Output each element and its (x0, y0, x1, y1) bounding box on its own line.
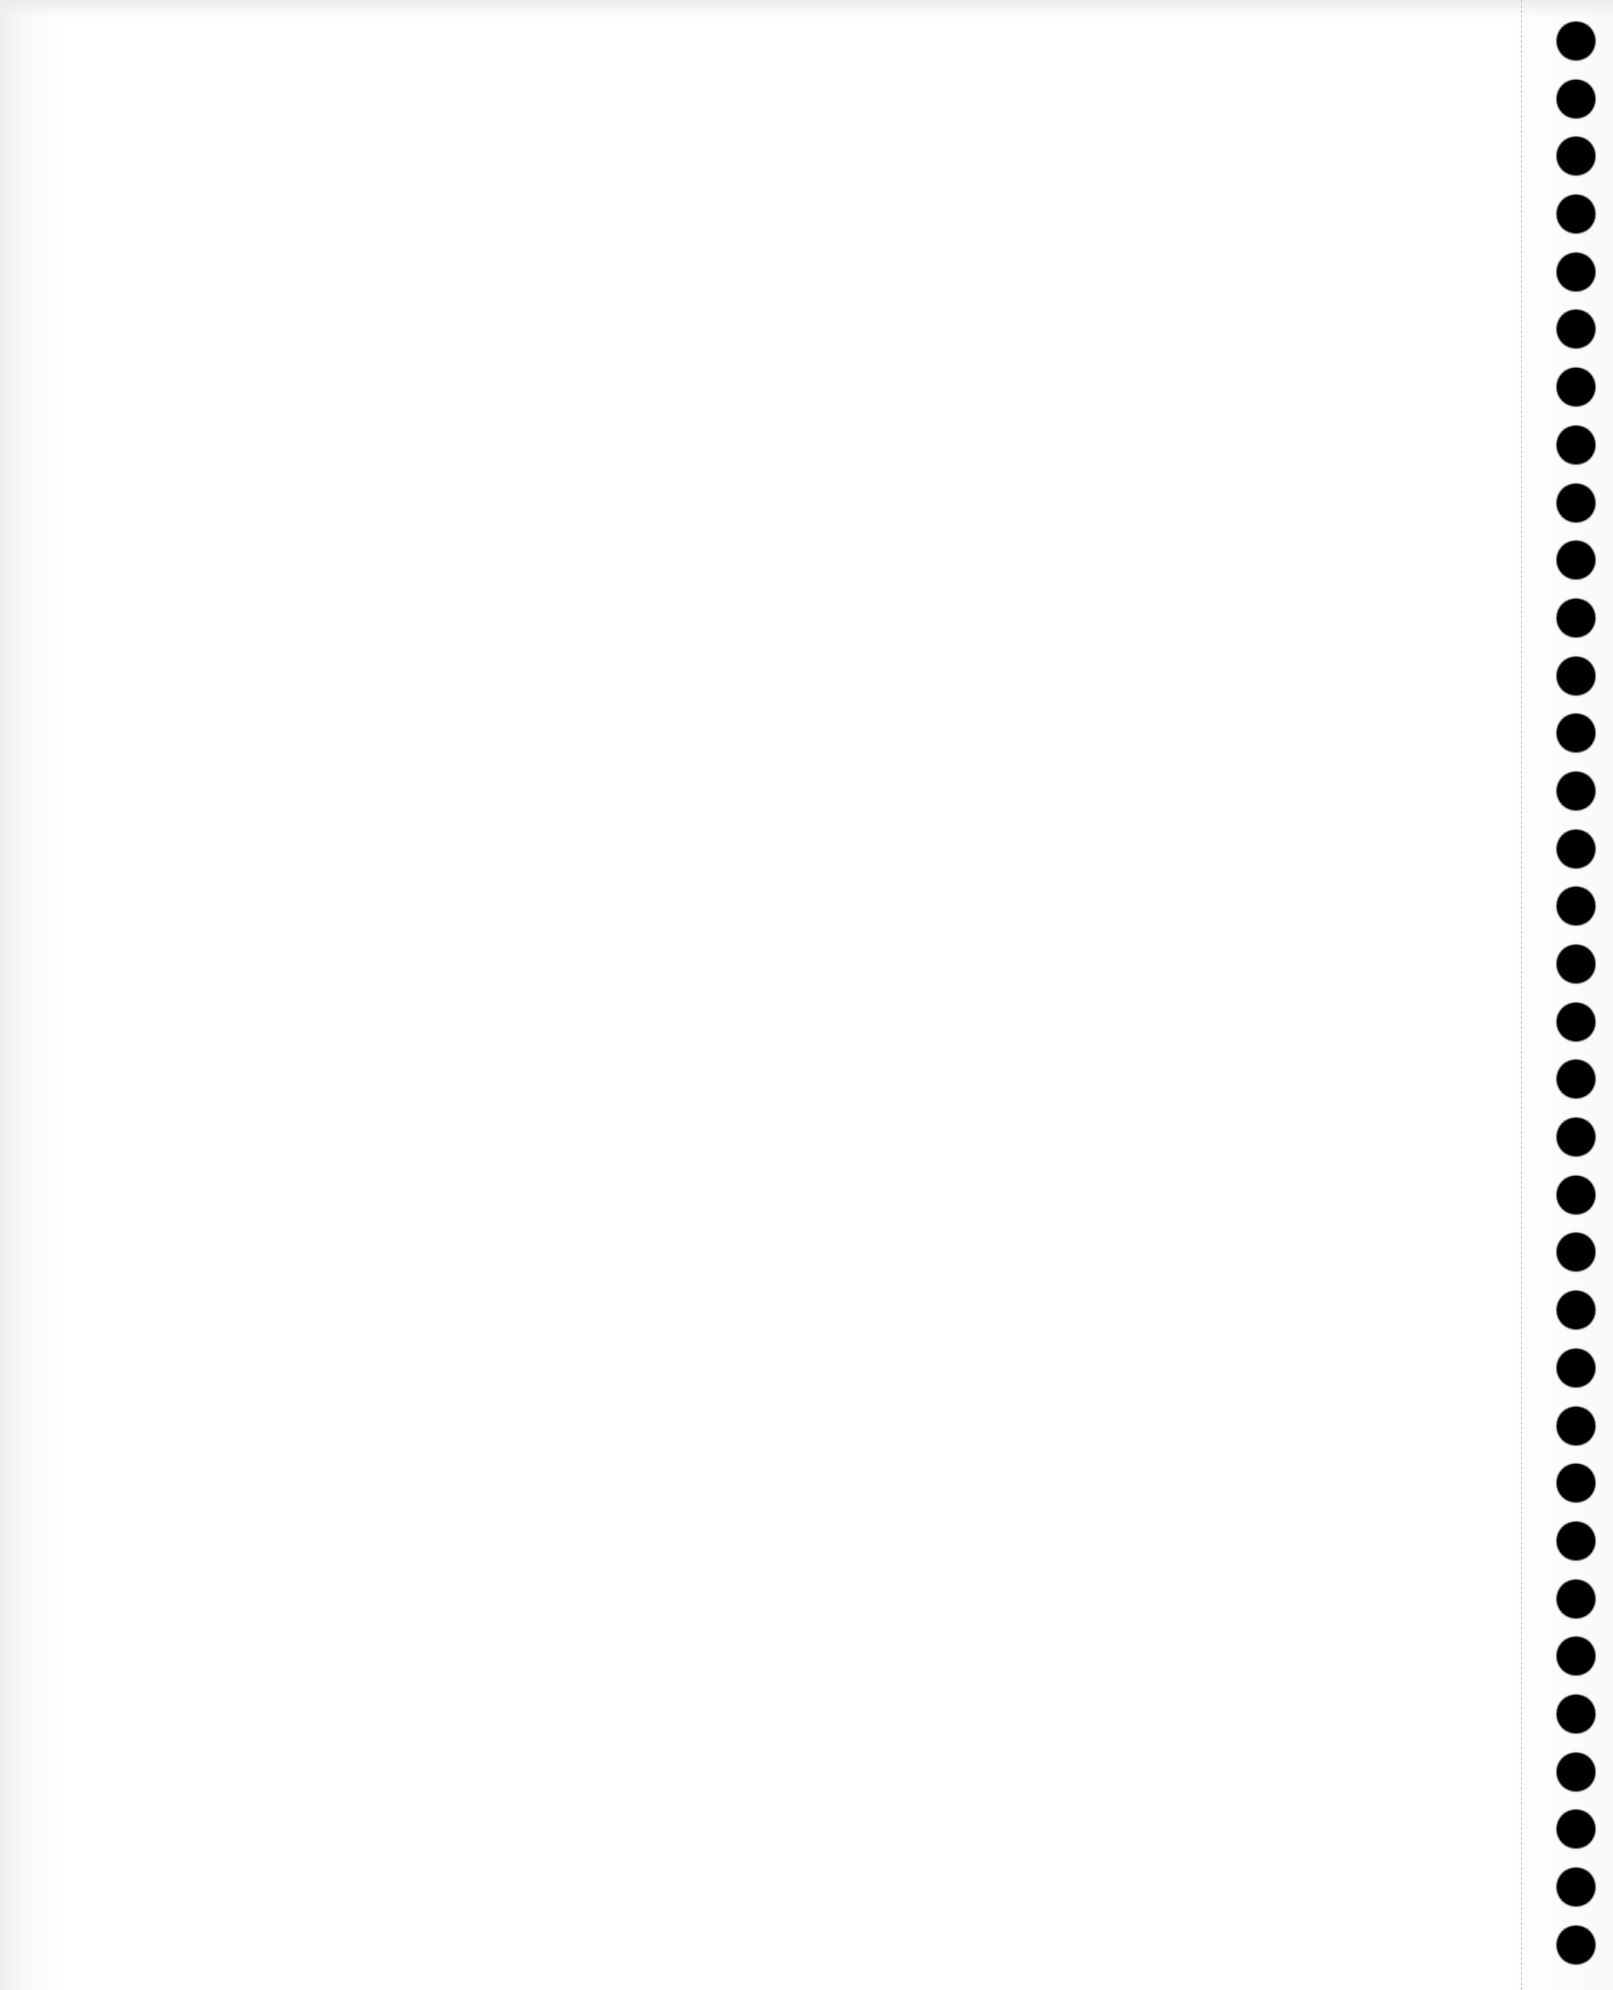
binding-hole (1557, 253, 1595, 291)
binding-hole (1557, 714, 1595, 752)
binding-hole (1557, 945, 1595, 983)
binding-hole (1557, 1810, 1595, 1848)
binding-hole (1557, 1868, 1595, 1906)
binding-hole (1557, 1580, 1595, 1618)
binding-hole (1557, 887, 1595, 925)
binding-hole (1557, 80, 1595, 118)
binding-hole (1557, 368, 1595, 406)
binding-hole (1557, 599, 1595, 637)
binding-hole (1557, 310, 1595, 348)
binding-hole (1557, 22, 1595, 60)
blank-page (0, 0, 1613, 1990)
binding-hole (1557, 1695, 1595, 1733)
perforation-line (1521, 0, 1522, 1990)
binding-hole (1557, 195, 1595, 233)
binding-hole (1557, 1637, 1595, 1675)
binding-hole (1557, 1176, 1595, 1214)
binding-hole (1557, 1753, 1595, 1791)
binding-hole (1557, 1522, 1595, 1560)
binding-hole (1557, 541, 1595, 579)
binding-hole (1557, 1060, 1595, 1098)
scan-shadow (0, 0, 1613, 18)
binding-hole (1557, 772, 1595, 810)
binding-hole (1557, 484, 1595, 522)
binding-hole (1557, 830, 1595, 868)
binding-hole (1557, 1926, 1595, 1964)
binding-hole (1557, 1464, 1595, 1502)
binding-hole (1557, 426, 1595, 464)
binding-hole (1557, 1291, 1595, 1329)
binding-hole (1557, 1233, 1595, 1271)
binding-hole (1557, 137, 1595, 175)
binding-hole (1557, 1003, 1595, 1041)
binding-hole (1557, 657, 1595, 695)
binding-hole (1557, 1407, 1595, 1445)
binding-hole (1557, 1349, 1595, 1387)
binding-hole (1557, 1118, 1595, 1156)
binding-holes (1557, 22, 1597, 1983)
